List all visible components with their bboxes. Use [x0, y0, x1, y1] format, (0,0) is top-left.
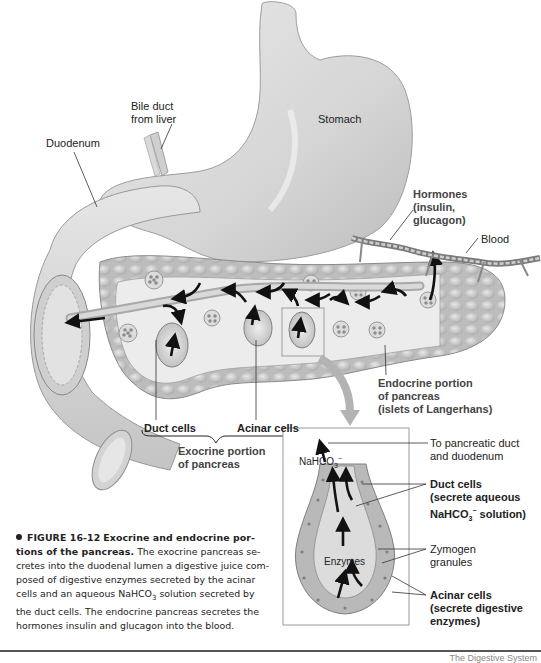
footer-running-head: The Digestive System: [449, 653, 537, 663]
label-bile-duct: Bile duct from liver: [131, 100, 176, 126]
caption-line-4a: cells and an aqueous NaHCO: [16, 588, 152, 599]
inset-pointer-arrowhead: [340, 410, 360, 426]
label-endocrine-line2: of pancreas: [378, 390, 492, 403]
bile-duct-shape: [144, 132, 168, 176]
inset-duct-cells-line3: NaHCO3− solution): [430, 504, 526, 525]
figure-caption: FIGURE 16-12 Exocrine and endocrine por-…: [16, 531, 281, 633]
label-bile-duct-line1: Bile duct: [131, 100, 176, 113]
inset-zymogen-line1: Zymogen: [430, 543, 476, 556]
duct-nahco3-sub: 3: [469, 515, 473, 522]
inset-acinar-line3: enzymes): [430, 615, 523, 628]
inset-label-to-duct: To pancreatic duct and duodenum: [430, 437, 519, 463]
label-hormones-line3: glucagon): [413, 214, 467, 227]
pancreas-figure: Bile duct from liver Duodenum Stomach Ho…: [0, 0, 541, 663]
figure-number: FIGURE 16-12: [27, 532, 100, 543]
caption-line-1: The exocrine pancreas se-: [137, 546, 260, 557]
caption-line-2: cretes into the duodenal lumen a digesti…: [16, 560, 269, 571]
caption-line-6: hormones insulin and glucagon into the b…: [16, 620, 234, 631]
label-acinar-cells: Acinar cells: [237, 422, 299, 435]
duct-nahco3-rest: solution): [477, 508, 527, 520]
inset-zymogen-line2: granules: [430, 556, 476, 569]
label-hormones-line1: Hormones: [413, 188, 467, 201]
figure-title-part1: Exocrine and endocrine por-: [103, 532, 255, 543]
footer-divider: [0, 650, 541, 652]
stomach-shape: [100, 2, 412, 262]
label-endocrine-line1: Endocrine portion: [378, 377, 492, 390]
inset-to-duct-line2: and duodenum: [430, 450, 519, 463]
inset-label-duct-cells: Duct cells (secrete aqueous NaHCO3− solu…: [430, 478, 526, 525]
label-endocrine-line3: (islets of Langerhans): [378, 403, 492, 416]
label-hormones: Hormones (insulin, glucagon): [413, 188, 467, 227]
inset-to-duct-line1: To pancreatic duct: [430, 437, 519, 450]
caption-line-4b: solution secreted by: [156, 588, 254, 599]
duct-nahco3-base: NaHCO: [430, 508, 469, 520]
nahco3-sub: 3: [334, 462, 338, 469]
label-duodenum: Duodenum: [46, 137, 100, 150]
label-exocrine-line1: Exocrine portion: [178, 445, 265, 458]
inset-acinar-line1: Acinar cells: [430, 589, 523, 602]
label-duct-cells: Duct cells: [144, 422, 196, 435]
inset-acinar-line2: (secrete digestive: [430, 602, 523, 615]
inset-label-acinar-cells: Acinar cells (secrete digestive enzymes): [430, 589, 523, 628]
inset-label-nahco3: NaHCO3−: [299, 452, 342, 472]
label-exocrine-line2: of pancreas: [178, 458, 265, 471]
figure-title-part2: tions of the pancreas.: [16, 546, 134, 557]
label-blood: Blood: [481, 233, 509, 246]
label-exocrine-portion: Exocrine portion of pancreas: [178, 445, 265, 471]
inset-duct-cells-line2: (secrete aqueous: [430, 491, 526, 504]
label-bile-duct-line2: from liver: [131, 113, 176, 126]
bullet-icon: [16, 534, 22, 540]
label-endocrine-portion: Endocrine portion of pancreas (islets of…: [378, 377, 492, 416]
label-stomach: Stomach: [318, 113, 361, 126]
label-hormones-line2: (insulin,: [413, 201, 467, 214]
nahco3-sup: −: [338, 455, 342, 462]
inset-label-enzymes: Enzymes: [324, 555, 365, 568]
inset-label-zymogen: Zymogen granules: [430, 543, 476, 569]
nahco3-base: NaHCO: [299, 456, 334, 467]
caption-line-3: posed of digestive enzymes secreted by t…: [16, 574, 255, 585]
inset-duct-cells-line1: Duct cells: [430, 478, 526, 491]
caption-line-5: the duct cells. The endocrine pancreas s…: [16, 606, 259, 617]
